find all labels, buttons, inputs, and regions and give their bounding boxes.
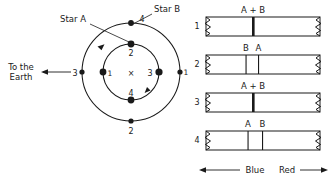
spectrum-row-1-line-1-label: A + B [241,5,265,15]
spectrum-row-2-number: 2 [194,60,199,69]
inner-orbit-dot-4-label: 4 [128,89,133,98]
inner-orbit-dot-3 [155,68,162,75]
spectrum-row-1-number: 1 [194,22,199,31]
spectrum-row-3-number: 3 [194,98,199,107]
center-of-mass-marker: × [128,69,135,78]
spectrum-row-2-line-1 [246,55,247,74]
star-a-label: Star A [60,14,86,24]
outer-orbit-dot-2-label: 2 [128,127,133,136]
spectrum-row-2-line-2 [258,55,259,74]
spectrum-row-3-line-1-label: A + B [241,81,265,91]
to-the-earth-label-line1: To the [7,62,34,72]
spectrum-row-4-line-2-label: B [260,119,266,129]
outer-orbit-dot-1 [177,69,182,74]
figure-background [0,0,330,183]
outer-orbit-dot-1-label: 1 [184,68,189,77]
outer-orbit-dot-3 [79,69,84,74]
to-the-earth-label-line2: Earth [10,72,33,82]
inner-orbit-dot-1-label: 1 [108,69,113,78]
spectrum-row-2-line-2-label: A [256,43,262,53]
inner-orbit-dot-1 [100,69,107,76]
inner-orbit-dot-2-label: 2 [128,49,133,58]
spectrum-row-4-line-1 [248,131,249,150]
red-axis-label: Red [279,165,295,175]
spectrum-row-4-line-2 [262,131,263,150]
spectrum-row-4-number: 4 [194,136,199,145]
outer-orbit-dot-4 [128,20,134,26]
outer-orbit-dot-2 [128,118,133,123]
inner-orbit-dot-3-label: 3 [147,69,152,78]
spectrum-row-2-line-1-label: B [243,43,249,53]
spectrum-row-1-line-1 [252,17,255,36]
spectrum-row-4-line-1-label: A [245,119,251,129]
star-b-label: Star B [154,4,180,14]
spectrum-row-3-line-1 [252,93,255,112]
outer-orbit-dot-3-label: 3 [72,69,77,78]
blue-axis-label: Blue [246,165,265,175]
binary-star-spectrum-figure: × 1 2 3 4 1 2 3 4 Star A Star B To the E… [0,0,330,183]
